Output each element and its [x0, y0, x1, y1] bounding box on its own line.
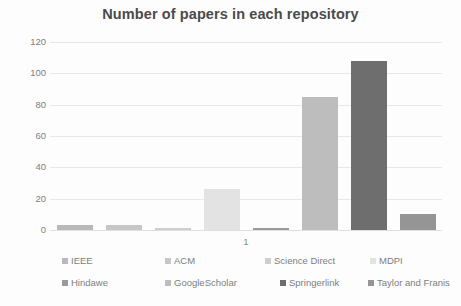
legend-item-hindawe[interactable]: Hindawe: [62, 277, 108, 288]
bar-springerlink[interactable]: [351, 61, 387, 230]
y-tick-label: 20: [2, 194, 46, 204]
y-tick-label: 40: [2, 162, 46, 172]
legend-swatch-icon: [265, 258, 271, 264]
y-tick-label: 60: [2, 131, 46, 141]
legend-label: Hindawe: [71, 277, 108, 288]
legend-swatch-icon: [62, 258, 68, 264]
legend-item-googlescholar[interactable]: GoogleScholar: [165, 277, 237, 288]
legend-label: GoogleScholar: [174, 277, 237, 288]
bar-ieee[interactable]: [57, 225, 93, 230]
legend-item-springerlink[interactable]: Springerlink: [280, 277, 339, 288]
legend-swatch-icon: [165, 258, 171, 264]
bar-mdpi[interactable]: [204, 189, 240, 230]
y-tick-label: 100: [2, 68, 46, 78]
y-tick-label: 80: [2, 100, 46, 110]
y-tick-label: 0: [2, 225, 46, 235]
legend-item-ieee[interactable]: IEEE: [62, 255, 93, 266]
bar-science-direct[interactable]: [155, 228, 191, 230]
plot-area: [50, 42, 442, 230]
legend-label: MDPI: [379, 255, 403, 266]
legend-row: IEEEACMScience DirectMDPI: [50, 255, 450, 277]
legend-label: Science Direct: [274, 255, 335, 266]
bar-acm[interactable]: [106, 225, 142, 230]
legend-item-acm[interactable]: ACM: [165, 255, 195, 266]
legend-label: Taylor and Franis: [377, 277, 450, 288]
legend-item-mdpi[interactable]: MDPI: [370, 255, 403, 266]
axis-baseline: [50, 230, 442, 231]
legend-label: ACM: [174, 255, 195, 266]
legend-swatch-icon: [368, 280, 374, 286]
legend-item-science-direct[interactable]: Science Direct: [265, 255, 335, 266]
legend-item-taylor-and-franis[interactable]: Taylor and Franis: [368, 277, 450, 288]
legend-swatch-icon: [165, 280, 171, 286]
bar-chart: Number of papers in each repository 0204…: [0, 0, 461, 306]
gridline-120: [50, 42, 442, 43]
legend-swatch-icon: [280, 280, 286, 286]
chart-title: Number of papers in each repository: [0, 6, 461, 22]
bar-taylor-and-franis[interactable]: [400, 214, 436, 230]
legend-label: IEEE: [71, 255, 93, 266]
legend-swatch-icon: [370, 258, 376, 264]
legend-swatch-icon: [62, 280, 68, 286]
bar-hindawe[interactable]: [253, 228, 289, 230]
y-axis: 020406080100120: [0, 42, 46, 230]
legend-label: Springerlink: [289, 277, 339, 288]
x-axis-tick-label: 1: [50, 236, 442, 247]
y-tick-label: 120: [2, 37, 46, 47]
bar-googlescholar[interactable]: [302, 97, 338, 230]
legend-row: HindaweGoogleScholarSpringerlinkTaylor a…: [50, 277, 450, 299]
chart-legend: IEEEACMScience DirectMDPIHindaweGoogleSc…: [50, 255, 450, 299]
